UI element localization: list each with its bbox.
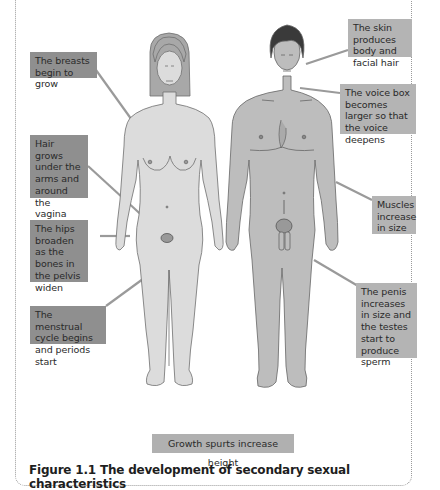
- label-muscles: Muscles increase in size: [372, 196, 416, 234]
- label-growth-spurts: Growth spurts increase height: [152, 434, 294, 453]
- label-voice-box: The voice box becomes larger so that the…: [340, 84, 416, 134]
- male-figure: [226, 25, 338, 387]
- label-skin: The skin produces body and facial hair: [348, 19, 412, 57]
- figure-caption: Figure 1.1 The development of secondary …: [29, 463, 440, 490]
- label-breasts: The breasts begin to grow: [30, 52, 97, 78]
- female-figure: [116, 33, 223, 386]
- label-menstrual-cycle: The menstrual cycle begins and periods s…: [30, 306, 106, 344]
- label-hips: The hips broaden as the bones in the pel…: [30, 220, 88, 282]
- label-hair-growth: Hair grows under the arms and around the…: [30, 135, 88, 198]
- label-penis-testes: The penis increases in size and the test…: [356, 283, 417, 358]
